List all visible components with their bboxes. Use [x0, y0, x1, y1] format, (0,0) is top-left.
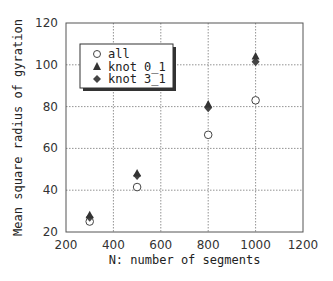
filled-triangle-marker — [252, 52, 260, 60]
y-axis-label: Mean square radius of gyration — [11, 19, 25, 236]
x-tick-label: 200 — [55, 238, 78, 252]
x-axis-label: N: number of segments — [109, 253, 261, 267]
open-circle-marker — [133, 183, 141, 191]
filled-triangle-marker — [133, 169, 141, 177]
open-circle-icon — [94, 51, 101, 58]
y-tick-label: 60 — [43, 141, 58, 155]
y-tick-label: 80 — [43, 100, 58, 114]
y-tick-label: 40 — [43, 183, 58, 197]
y-axis-ticks: 20406080100120 — [35, 16, 58, 239]
scatter-chart: 20040060080010001200 20406080100120 N: n… — [0, 0, 333, 281]
filled-triangle-marker — [204, 100, 212, 108]
legend-label-all: all — [108, 47, 130, 61]
open-circle-marker — [204, 131, 212, 139]
y-tick-label: 120 — [35, 16, 58, 30]
x-tick-label: 1200 — [288, 238, 319, 252]
y-tick-label: 100 — [35, 58, 58, 72]
x-tick-label: 400 — [102, 238, 125, 252]
filled-triangle-marker — [86, 211, 94, 219]
legend: all knot 0_1 knot 3_1 — [80, 44, 176, 91]
x-tick-label: 1000 — [240, 238, 271, 252]
y-tick-label: 20 — [43, 225, 58, 239]
x-axis-ticks: 20040060080010001200 — [55, 238, 319, 252]
x-tick-label: 800 — [197, 238, 220, 252]
legend-label-knot31: knot 3_1 — [108, 72, 166, 86]
x-tick-label: 600 — [149, 238, 172, 252]
open-circle-marker — [252, 97, 260, 105]
